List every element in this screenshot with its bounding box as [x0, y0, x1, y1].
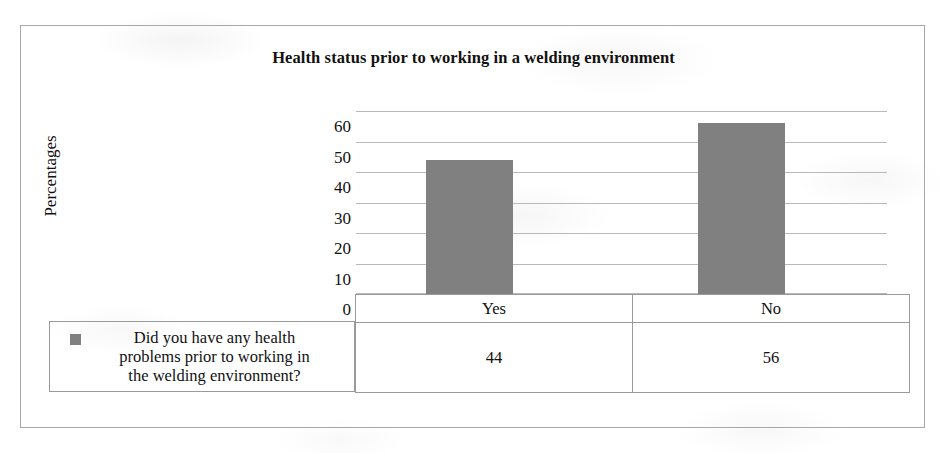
gridline-60 [356, 111, 887, 112]
legend-swatch-icon [70, 334, 81, 345]
chart-title: Health status prior to working in a weld… [21, 48, 926, 68]
y-tick-label-50: 50 [306, 148, 351, 165]
bar-yes [426, 160, 513, 294]
gridline-50 [356, 142, 887, 143]
table-header-no: No [633, 295, 910, 323]
legend-label-line-3: the welding environment? [128, 366, 300, 385]
plot-area [356, 111, 887, 294]
y-tick-label-0: 0 [306, 301, 351, 318]
y-axis-title: Percentages [41, 96, 61, 256]
legend: Did you have any health problems prior t… [49, 321, 355, 392]
y-tick-label-10: 10 [306, 270, 351, 287]
table-cell-yes: 44 [356, 323, 633, 393]
table-header-yes: Yes [356, 295, 633, 323]
y-tick-label-30: 30 [306, 209, 351, 226]
table-row-headers: Yes No [356, 295, 910, 323]
table-row-values: 44 56 [356, 323, 910, 393]
legend-label-line-2: problems prior to working in [119, 347, 310, 366]
legend-label-line-1: Did you have any health [134, 328, 295, 347]
y-tick-label-40: 40 [306, 179, 351, 196]
y-tick-label-60: 60 [306, 118, 351, 135]
y-tick-label-20: 20 [306, 240, 351, 257]
legend-label: Did you have any health problems prior t… [87, 328, 354, 385]
bar-no [698, 123, 785, 294]
y-axis-tick-labels: 60 50 40 30 20 10 0 [306, 101, 351, 301]
table-cell-no: 56 [633, 323, 910, 393]
chart-figure-frame: Health status prior to working in a weld… [20, 25, 925, 428]
data-table: Yes No 44 56 [355, 294, 910, 393]
